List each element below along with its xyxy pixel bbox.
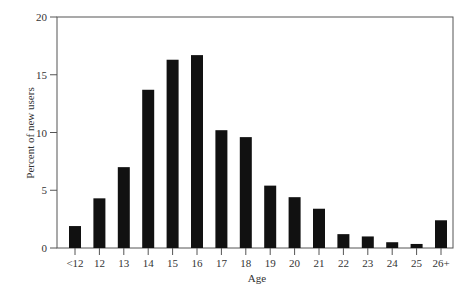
bar <box>118 167 130 248</box>
bar <box>435 220 447 248</box>
bars <box>69 55 447 248</box>
x-tick-label: <12 <box>66 257 83 269</box>
x-tick-label: 23 <box>362 257 374 269</box>
x-tick-label: 20 <box>289 257 301 269</box>
plot-area-frame <box>57 17 453 248</box>
bar <box>337 234 349 248</box>
y-tick-label: 0 <box>42 242 48 254</box>
x-tick-label: 17 <box>216 257 228 269</box>
bar <box>313 209 325 248</box>
y-axis: 05101520 <box>36 11 57 254</box>
y-tick-label: 5 <box>42 184 48 196</box>
x-tick-label: 24 <box>387 257 399 269</box>
x-tick-label: 21 <box>314 257 325 269</box>
bar <box>191 55 203 248</box>
bar <box>411 244 423 248</box>
bar <box>167 60 179 248</box>
x-tick-label: 26+ <box>432 257 449 269</box>
chart-canvas: 05101520 <121213141516171819202122232425… <box>0 0 476 298</box>
y-tick-label: 20 <box>36 11 48 23</box>
bar <box>289 197 301 248</box>
bar <box>69 226 81 248</box>
y-axis-label: Percent of new users <box>24 87 36 178</box>
bar <box>240 137 252 248</box>
x-tick-label: 22 <box>338 257 349 269</box>
bar <box>142 90 154 248</box>
x-tick-label: 16 <box>192 257 204 269</box>
x-tick-label: 12 <box>94 257 105 269</box>
x-tick-label: 14 <box>143 257 155 269</box>
y-tick-label: 10 <box>36 127 48 139</box>
x-axis-label: Age <box>248 272 266 284</box>
x-axis: <12121314151617181920212223242526+ <box>66 248 449 269</box>
bar <box>215 130 227 248</box>
bar <box>386 242 398 248</box>
bar-chart: 05101520 <121213141516171819202122232425… <box>0 0 476 298</box>
x-tick-label: 18 <box>240 257 252 269</box>
bar <box>93 198 105 248</box>
bar <box>264 186 276 248</box>
x-tick-label: 15 <box>167 257 179 269</box>
x-tick-label: 19 <box>265 257 277 269</box>
x-tick-label: 13 <box>118 257 130 269</box>
x-tick-label: 25 <box>411 257 423 269</box>
y-tick-label: 15 <box>36 69 48 81</box>
bar <box>362 236 374 248</box>
